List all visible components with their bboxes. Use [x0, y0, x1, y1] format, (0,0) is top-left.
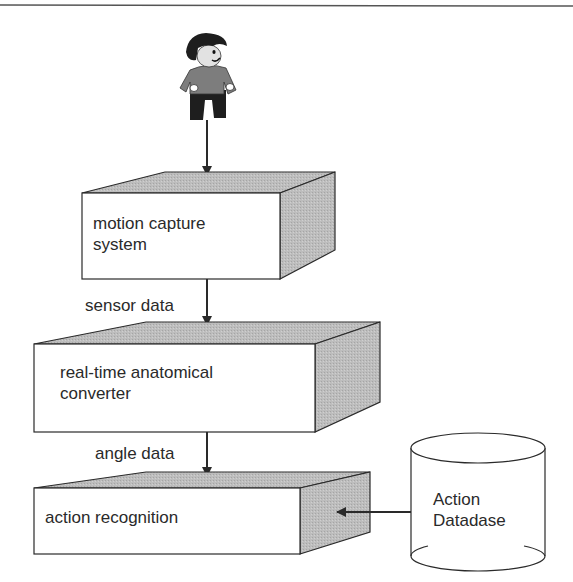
person-icon: [180, 33, 236, 120]
label-line: Datadase: [433, 510, 506, 531]
label-line: system: [93, 234, 205, 255]
label-line: real-time anatomical: [60, 362, 213, 383]
box-anatomical-converter-label: real-time anatomical converter: [60, 362, 213, 404]
label-line: converter: [60, 383, 213, 404]
database-label: Action Datadase: [433, 489, 506, 531]
page-top-rule: [0, 5, 573, 6]
edge-label-sensor-data: sensor data: [85, 295, 174, 316]
label-line: motion capture: [93, 213, 205, 234]
label-line: Action: [433, 489, 506, 510]
box-action-recognition-label: action recognition: [45, 507, 178, 528]
edge-label-angle-data: angle data: [95, 443, 174, 464]
box-motion-capture-label: motion capture system: [93, 213, 205, 255]
